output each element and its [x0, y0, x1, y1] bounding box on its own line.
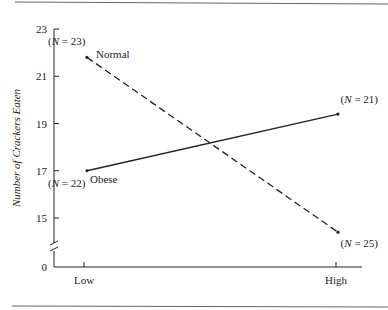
x-tick-label: Low [74, 274, 94, 286]
sample-size-label: (N = 21) [341, 93, 379, 106]
data-point [85, 169, 88, 172]
y-tick-label: 23 [36, 23, 48, 35]
series-obese: (N = 22)(N = 21)Obese [48, 93, 378, 190]
top-rule [15, 2, 388, 4]
x-tick-label: High [325, 274, 348, 286]
y-tick-label: 15 [36, 212, 48, 224]
y-tick-label: 21 [36, 70, 47, 82]
data-point [85, 56, 88, 59]
y-tick-label: 0 [42, 261, 48, 273]
x-axis: LowHigh [54, 262, 362, 286]
y-axis: 01517192123 [36, 23, 59, 273]
bottom-rule [12, 306, 388, 307]
y-tick-label: 17 [36, 165, 48, 177]
sample-size-label: (N = 25) [341, 237, 379, 250]
interaction-line-chart: 01517192123 LowHigh Number of Crackers E… [0, 0, 388, 310]
series-label: Obese [90, 173, 118, 185]
sample-size-label: (N = 22) [48, 177, 86, 190]
data-point [336, 112, 339, 115]
sample-size-label: (N = 23) [48, 35, 86, 48]
data-point [336, 231, 339, 234]
series-label: Normal [96, 48, 130, 60]
y-axis-label: Number of Crackers Eaten [10, 88, 22, 208]
y-tick-label: 19 [36, 118, 48, 130]
